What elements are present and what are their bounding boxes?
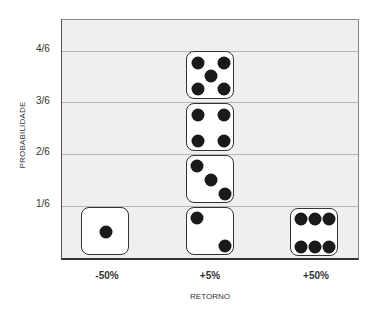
die-face-2 bbox=[186, 207, 234, 255]
pip bbox=[192, 57, 205, 70]
pip bbox=[323, 241, 336, 254]
pip bbox=[218, 135, 231, 148]
y-tick-1-6: 1/6 bbox=[36, 198, 58, 209]
x-tick-minus-50: -50% bbox=[95, 270, 118, 281]
x-tick-plus-5: +5% bbox=[200, 270, 220, 281]
pip bbox=[191, 160, 204, 173]
die-face-1 bbox=[81, 207, 129, 255]
y-tick-4-6: 4/6 bbox=[36, 43, 58, 54]
pip bbox=[100, 226, 113, 239]
pip bbox=[192, 83, 205, 96]
pip bbox=[295, 213, 308, 226]
die-face-4 bbox=[186, 103, 234, 151]
y-tick-2-6: 2/6 bbox=[36, 146, 58, 157]
pip bbox=[323, 213, 336, 226]
die-face-5 bbox=[186, 51, 234, 99]
y-tick-3-6: 3/6 bbox=[36, 95, 58, 106]
die-face-6 bbox=[290, 208, 338, 256]
pip bbox=[218, 83, 231, 96]
pip bbox=[309, 213, 322, 226]
pip bbox=[205, 70, 218, 83]
pip bbox=[191, 212, 204, 225]
die-face-3 bbox=[186, 155, 234, 203]
pip bbox=[205, 174, 218, 187]
pip bbox=[192, 135, 205, 148]
pip bbox=[218, 57, 231, 70]
pip bbox=[219, 188, 232, 201]
pip bbox=[218, 109, 231, 122]
y-axis-label: PROBABILIDADE bbox=[18, 101, 27, 168]
pip bbox=[192, 109, 205, 122]
pip bbox=[219, 240, 232, 253]
x-axis-label: RETORNO bbox=[190, 292, 230, 301]
x-tick-plus-50: +50% bbox=[303, 270, 329, 281]
pip bbox=[309, 241, 322, 254]
pip bbox=[295, 241, 308, 254]
